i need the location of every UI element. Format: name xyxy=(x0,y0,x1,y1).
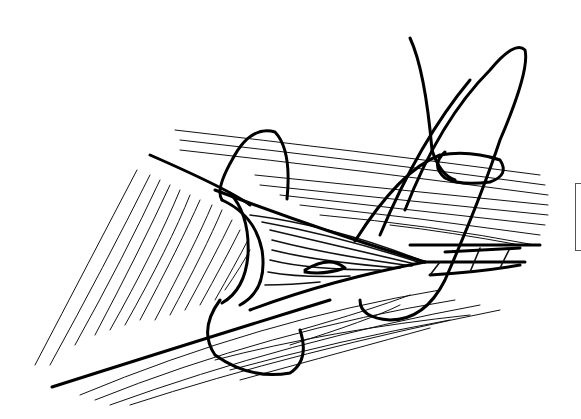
suture-loop-left xyxy=(208,131,304,375)
upper-fibers xyxy=(175,130,548,245)
surgical-illustration xyxy=(0,0,581,419)
lower-fibers xyxy=(80,290,500,405)
ladder-structure xyxy=(410,245,540,275)
edge-frame-mark xyxy=(575,183,581,251)
